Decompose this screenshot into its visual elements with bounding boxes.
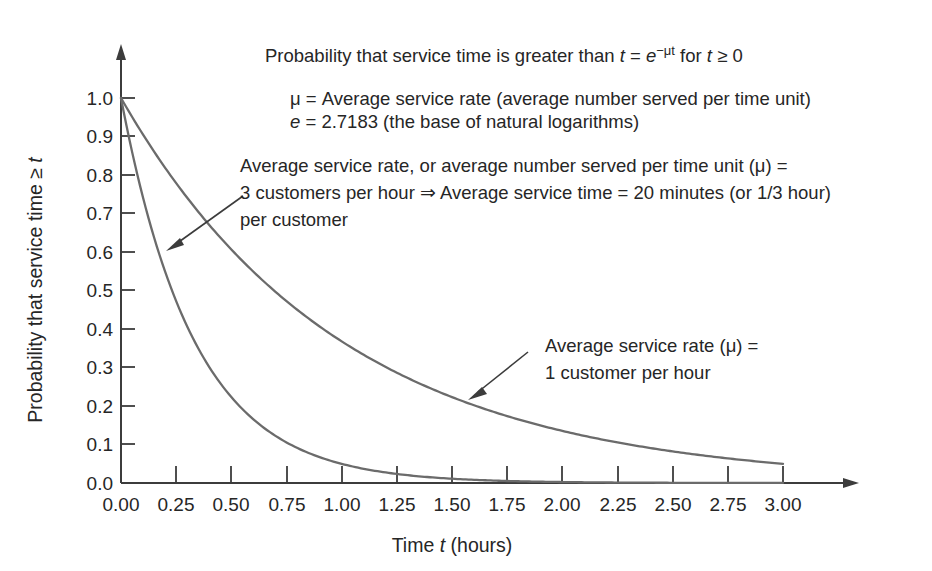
x-axis-title: Time t (hours) xyxy=(392,534,513,556)
x-axis-tick-labels: 0.00 0.25 0.50 0.75 1.00 1.25 1.50 1.75 … xyxy=(103,494,802,515)
y-tick-label: 0.6 xyxy=(87,242,113,263)
x-tick-label: 2.25 xyxy=(600,494,637,515)
y-axis-ticks xyxy=(121,98,135,444)
y-tick-label: 0.4 xyxy=(87,319,114,340)
y-tick-label: 0.2 xyxy=(87,396,113,417)
leader-mu-3 xyxy=(166,196,243,251)
mu-3-annotation-line-1: Average service rate, or average number … xyxy=(240,155,788,176)
curve-mu-1-customer-per-hour xyxy=(121,98,783,464)
x-tick-label: 2.00 xyxy=(544,494,581,515)
x-tick-label: 0.00 xyxy=(103,494,140,515)
x-axis-ticks xyxy=(121,466,783,483)
mu-3-annotation-line-2: 3 customers per hour ⇒ Average service t… xyxy=(240,182,831,203)
exponential-service-time-figure: 1.0 0.9 0.8 0.7 0.6 0.5 0.4 0.3 0.2 0.1 … xyxy=(0,0,932,571)
y-tick-label: 0.3 xyxy=(87,357,113,378)
mu-3-annotation: Average service rate, or average number … xyxy=(240,155,831,230)
x-tick-label: 2.75 xyxy=(710,494,747,515)
x-tick-label: 1.50 xyxy=(434,494,471,515)
x-tick-label: 1.25 xyxy=(379,494,416,515)
y-axis-arrowhead xyxy=(116,44,126,60)
y-axis-title: Probability that service time ≥ t xyxy=(24,156,46,423)
y-axis-tick-labels: 1.0 0.9 0.8 0.7 0.6 0.5 0.4 0.3 0.2 0.1 … xyxy=(87,88,114,494)
x-axis-arrowhead xyxy=(843,478,859,488)
mu-3-annotation-line-3: per customer xyxy=(240,209,348,230)
definition-mu: μ = Average service rate (average number… xyxy=(290,88,811,109)
y-tick-label: 0.9 xyxy=(87,126,113,147)
y-tick-label: 0.8 xyxy=(87,165,113,186)
y-tick-label: 1.0 xyxy=(87,88,113,109)
x-tick-label: 2.50 xyxy=(655,494,692,515)
x-tick-label: 0.25 xyxy=(158,494,195,515)
y-tick-label: 0.5 xyxy=(87,280,113,301)
mu-1-annotation-line-1: Average service rate (μ) = xyxy=(545,335,758,356)
leader-mu-1 xyxy=(468,352,528,400)
x-tick-label: 3.00 xyxy=(765,494,802,515)
x-tick-label: 1.75 xyxy=(489,494,526,515)
y-tick-label: 0.0 xyxy=(87,473,113,494)
x-tick-label: 0.75 xyxy=(269,494,306,515)
chart-formula-title: Probability that service time is greater… xyxy=(265,43,743,66)
y-tick-label: 0.1 xyxy=(87,434,113,455)
chart-svg: 1.0 0.9 0.8 0.7 0.6 0.5 0.4 0.3 0.2 0.1 … xyxy=(0,0,932,571)
y-tick-label: 0.7 xyxy=(87,203,113,224)
definition-e: e = 2.7183 (the base of natural logarith… xyxy=(290,111,639,132)
x-tick-label: 0.50 xyxy=(213,494,250,515)
mu-1-annotation-line-2: 1 customer per hour xyxy=(545,362,711,383)
x-tick-label: 1.00 xyxy=(324,494,361,515)
mu-1-annotation: Average service rate (μ) = 1 customer pe… xyxy=(545,335,758,383)
